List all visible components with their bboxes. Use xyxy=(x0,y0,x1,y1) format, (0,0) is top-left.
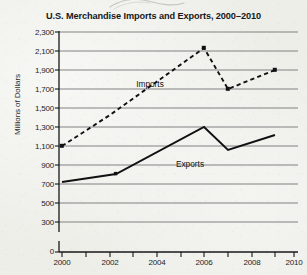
x-tick-label: 2000 xyxy=(54,258,71,267)
data-point-marker xyxy=(273,68,277,72)
data-point-marker xyxy=(60,144,64,148)
series-exports xyxy=(62,127,275,182)
x-tick-label: 2002 xyxy=(102,258,119,267)
x-tick-label: 2004 xyxy=(149,258,166,267)
x-axis-ticks xyxy=(62,252,294,257)
x-tick-label: 2010 xyxy=(286,258,303,267)
series-imports xyxy=(60,46,277,148)
plot-area xyxy=(0,0,307,275)
x-axis-tick-labels: 2000 2002 2004 2006 2008 2010 xyxy=(0,258,307,274)
data-point-marker xyxy=(226,87,230,91)
data-point-marker xyxy=(114,172,117,175)
series-label-exports: Exports xyxy=(176,159,204,169)
gridlines-horizontal xyxy=(59,32,298,222)
series-label-imports: Imports xyxy=(136,79,164,89)
x-tick-label: 2006 xyxy=(196,258,213,267)
data-point-marker xyxy=(202,46,206,50)
chart-figure: U.S. Merchandise Imports and Exports, 20… xyxy=(0,0,307,275)
x-tick-label: 2008 xyxy=(244,258,261,267)
